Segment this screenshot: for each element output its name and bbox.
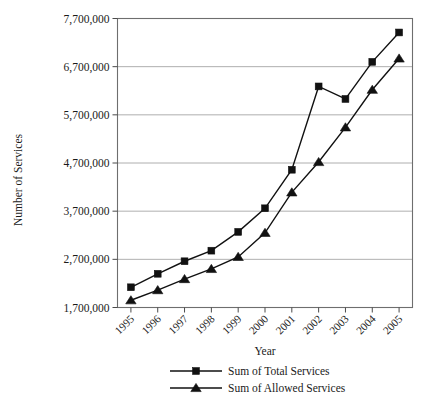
x-tick-label: 1997 bbox=[166, 312, 190, 336]
data-point-marker bbox=[394, 54, 404, 62]
y-tick-label: 7,700,000 bbox=[64, 13, 110, 26]
data-point-marker bbox=[342, 96, 349, 103]
legend-marker-square bbox=[193, 368, 200, 375]
data-point-marker bbox=[260, 228, 270, 236]
legend-label: Sum of Allowed Services bbox=[228, 382, 346, 394]
y-tick-label: 3,700,000 bbox=[64, 205, 110, 218]
series-2 bbox=[126, 54, 405, 304]
x-tick-label: 2003 bbox=[327, 312, 351, 336]
y-tick-label: 4,700,000 bbox=[64, 157, 110, 170]
x-tick-label: 1996 bbox=[139, 312, 163, 336]
data-point-marker bbox=[369, 58, 376, 65]
x-axis-title: Year bbox=[254, 345, 275, 357]
y-tick-label: 2,700,000 bbox=[64, 253, 110, 266]
y-axis-title: Number of Services bbox=[12, 133, 24, 225]
y-tick-label: 5,700,000 bbox=[64, 109, 110, 122]
x-tick-label: 2002 bbox=[300, 312, 324, 336]
x-tick-label: 2004 bbox=[354, 312, 378, 336]
y-axis-ticks: 1,700,0002,700,0003,700,0004,700,0005,70… bbox=[64, 13, 118, 315]
x-tick-label: 1999 bbox=[220, 312, 244, 336]
data-point-marker bbox=[396, 29, 403, 36]
data-point-marker bbox=[181, 258, 188, 265]
x-tick-label: 2001 bbox=[273, 312, 297, 336]
line-chart: Number of Services 1,700,0002,700,0003,7… bbox=[0, 0, 431, 402]
data-point-marker bbox=[206, 264, 216, 272]
legend-item-2: Sum of Allowed Services bbox=[170, 382, 346, 394]
data-point-marker bbox=[315, 83, 322, 90]
x-tick-label: 2000 bbox=[246, 312, 270, 336]
data-point-marker bbox=[262, 205, 269, 212]
y-tick-label: 1,700,000 bbox=[64, 302, 110, 315]
x-axis-ticks: 1995199619971998199920002001200220032004… bbox=[112, 308, 405, 337]
gridlines bbox=[118, 19, 413, 260]
x-tick-label: 2005 bbox=[380, 312, 404, 336]
series-line-2 bbox=[131, 58, 399, 300]
data-point-marker bbox=[313, 157, 323, 165]
chart-container: Number of Services 1,700,0002,700,0003,7… bbox=[0, 0, 431, 402]
series-1 bbox=[128, 29, 403, 291]
series-line-1 bbox=[131, 32, 399, 287]
data-point-marker bbox=[208, 247, 215, 254]
data-point-marker bbox=[153, 286, 163, 294]
data-point-marker bbox=[154, 270, 161, 277]
data-point-marker bbox=[179, 274, 189, 282]
legend-label: Sum of Total Services bbox=[228, 365, 330, 377]
data-point-marker bbox=[340, 123, 350, 131]
legend-item-1: Sum of Total Services bbox=[170, 365, 330, 377]
chart-legend: Sum of Total ServicesSum of Allowed Serv… bbox=[170, 365, 346, 394]
data-point-marker bbox=[288, 166, 295, 173]
data-point-marker bbox=[235, 228, 242, 235]
data-point-marker bbox=[126, 296, 136, 304]
y-axis-title-text: Number of Services bbox=[12, 133, 24, 225]
series-layer bbox=[126, 29, 405, 304]
data-point-marker bbox=[128, 284, 135, 291]
x-tick-label: 1998 bbox=[193, 312, 217, 336]
y-tick-label: 6,700,000 bbox=[64, 61, 110, 74]
x-tick-label: 1995 bbox=[112, 312, 136, 336]
